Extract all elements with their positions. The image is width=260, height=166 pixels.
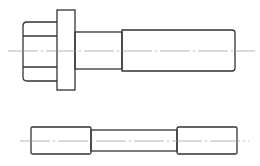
pin-right-end <box>177 127 237 154</box>
pin-left-end <box>31 127 91 154</box>
bolt-flange <box>57 10 75 90</box>
watermark <box>0 152 260 166</box>
bolt-shank <box>75 32 122 69</box>
bolt-head <box>23 22 57 81</box>
pin-middle-neck <box>91 130 177 151</box>
bolt-threaded-body <box>122 30 235 71</box>
technical-drawing <box>0 0 260 166</box>
pin-view <box>20 127 249 154</box>
flanged-bolt-view <box>8 10 255 90</box>
